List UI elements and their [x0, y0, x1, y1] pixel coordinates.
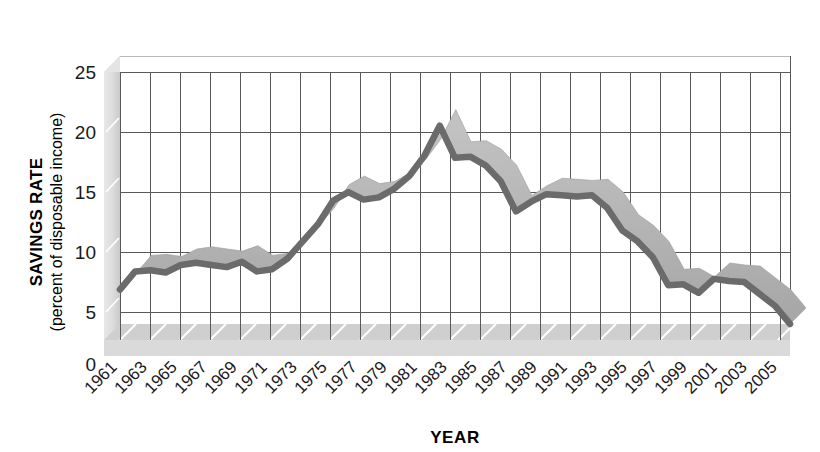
x-tick-label-1975: 1975	[291, 357, 331, 397]
y-axis-tick-labels: 25 20 15 10 5 0	[75, 62, 96, 375]
y-tick-label-5: 5	[85, 302, 96, 323]
x-tick-label-1993: 1993	[561, 357, 601, 397]
x-tick-label-1969: 1969	[201, 357, 241, 397]
x-axis-title: YEAR	[430, 428, 480, 447]
x-axis-tick-labels: 1961 1963 1965 1967 1969 1971 1973 1975 …	[81, 357, 781, 397]
y-tick-label-15: 15	[75, 182, 96, 203]
y-tick-label-10: 10	[75, 242, 96, 263]
x-tick-label-1983: 1983	[411, 357, 451, 397]
savings-rate-chart-figure: 25 20 15 10 5 0 SAVINGS RATE (percent of…	[0, 0, 820, 452]
x-tick-label-1971: 1971	[231, 357, 271, 397]
x-tick-label-1999: 1999	[651, 357, 691, 397]
x-tick-label-1997: 1997	[621, 357, 661, 397]
x-tick-label-1981: 1981	[381, 357, 421, 397]
floor-front	[104, 340, 790, 356]
x-tick-label-1977: 1977	[321, 357, 361, 397]
y-axis-title-sub: (percent of disposable income)	[48, 113, 65, 332]
x-tick-label-1989: 1989	[501, 357, 541, 397]
x-tick-label-1973: 1973	[261, 357, 301, 397]
floor-slab	[104, 324, 790, 340]
x-tick-label-1965: 1965	[141, 357, 181, 397]
x-tick-label-1985: 1985	[441, 357, 481, 397]
x-tick-label-1967: 1967	[171, 357, 211, 397]
chart-3d-backdrop	[104, 56, 790, 356]
x-tick-label-1995: 1995	[591, 357, 631, 397]
x-tick-label-2001: 2001	[681, 357, 721, 397]
x-tick-label-1987: 1987	[471, 357, 511, 397]
x-tick-label-1979: 1979	[351, 357, 391, 397]
y-axis-wall-top	[104, 56, 120, 72]
x-tick-label-1963: 1963	[111, 357, 151, 397]
y-axis-title-group: SAVINGS RATE (percent of disposable inco…	[27, 113, 65, 332]
y-tick-label-25: 25	[75, 62, 96, 83]
y-tick-label-20: 20	[75, 122, 96, 143]
x-tick-label-1991: 1991	[531, 357, 571, 397]
x-tick-label-2003: 2003	[711, 357, 751, 397]
chart-svg: 25 20 15 10 5 0 SAVINGS RATE (percent of…	[0, 0, 820, 452]
y-axis-title-main: SAVINGS RATE	[27, 158, 46, 287]
x-tick-label-2005: 2005	[741, 357, 781, 397]
